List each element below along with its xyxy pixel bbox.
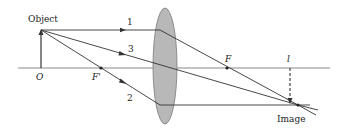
ray-1-arrow-icon xyxy=(120,28,126,32)
ray-3-arrow-icon xyxy=(119,51,127,56)
focal-point-back-dot xyxy=(225,66,228,69)
ray-3 xyxy=(41,30,318,110)
focal-back-label: F xyxy=(224,54,232,64)
ray-1 xyxy=(41,30,316,115)
ray-3-label: 3 xyxy=(128,44,134,54)
image-point-dot xyxy=(296,103,299,106)
focal-front-label: F' xyxy=(91,72,101,82)
ray-2-arrow-icon xyxy=(119,79,127,85)
lens-ray-diagram: Object O F' F l Image 1 3 2 xyxy=(0,0,342,132)
origin-label: O xyxy=(36,72,44,82)
ray-1-label: 1 xyxy=(127,17,133,27)
object-label: Object xyxy=(28,14,58,24)
focal-point-front-dot xyxy=(99,66,102,69)
image-label: Image xyxy=(277,114,306,124)
image-distance-label: l xyxy=(287,54,290,64)
ray-2-label: 2 xyxy=(127,93,133,103)
